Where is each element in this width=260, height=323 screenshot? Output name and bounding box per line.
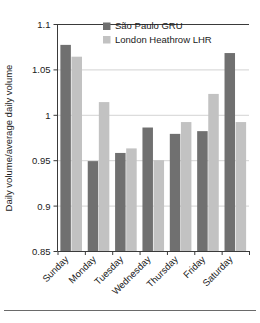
bar xyxy=(88,161,99,251)
bar-chart: 0.850.90.9511.051.1 SundayMondayTuesdayW… xyxy=(0,0,260,323)
y-tick-label: 0.85 xyxy=(32,246,51,257)
bar xyxy=(154,160,165,251)
legend-swatch xyxy=(103,23,111,31)
legend-label: São Paulo GRU xyxy=(115,20,183,31)
bar xyxy=(208,94,219,251)
bar xyxy=(126,148,137,251)
bar xyxy=(142,128,153,251)
bar xyxy=(181,122,192,251)
bar xyxy=(197,131,208,251)
legend-swatch xyxy=(103,36,111,44)
y-tick-label: 1.1 xyxy=(37,19,50,30)
bar xyxy=(71,57,82,251)
bar xyxy=(99,102,110,251)
y-tick-label: 1.05 xyxy=(32,64,51,75)
bar xyxy=(236,122,247,251)
chart-figure: 0.850.90.9511.051.1 SundayMondayTuesdayW… xyxy=(0,0,260,323)
y-tick-label: 0.95 xyxy=(32,155,51,166)
bar xyxy=(170,134,181,251)
y-axis-title: Daily volume/average daily volume xyxy=(3,65,14,212)
y-tick-label: 0.9 xyxy=(37,201,50,212)
bar xyxy=(115,153,126,251)
legend-label: London Heathrow LHR xyxy=(115,34,212,45)
y-tick-label: 1 xyxy=(45,110,50,121)
bar xyxy=(60,45,71,251)
bar xyxy=(225,53,236,251)
